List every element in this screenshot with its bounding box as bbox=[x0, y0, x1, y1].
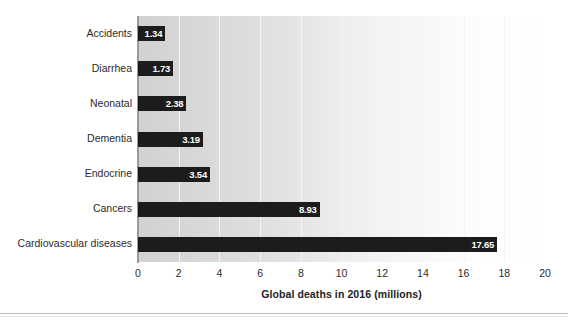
category-label: Accidents bbox=[0, 27, 139, 39]
bar: 1.34 bbox=[138, 26, 165, 41]
gridline-18 bbox=[504, 16, 505, 262]
bar-value-label: 1.73 bbox=[153, 63, 174, 74]
category-label: Diarrhea bbox=[0, 62, 139, 74]
gridline-12 bbox=[382, 16, 383, 262]
category-label: Neonatal bbox=[0, 97, 139, 109]
x-tick-label: 20 bbox=[530, 267, 560, 279]
bar: 3.54 bbox=[138, 167, 210, 182]
x-axis-title: Global deaths in 2016 (millions) bbox=[138, 288, 545, 300]
bar-value-label: 2.38 bbox=[166, 98, 187, 109]
x-tick-label: 16 bbox=[449, 267, 479, 279]
gridline-16 bbox=[464, 16, 465, 262]
bar: 3.19 bbox=[138, 132, 203, 147]
x-tick-label: 8 bbox=[286, 267, 316, 279]
bar: 8.93 bbox=[138, 202, 320, 217]
gridline-14 bbox=[423, 16, 424, 262]
x-tick-label: 2 bbox=[164, 267, 194, 279]
category-label: Dementia bbox=[0, 132, 139, 144]
bar: 17.65 bbox=[138, 237, 497, 252]
bar: 2.38 bbox=[138, 96, 186, 111]
page-divider-rule bbox=[0, 313, 568, 314]
x-tick-label: 4 bbox=[204, 267, 234, 279]
gridline-10 bbox=[342, 16, 343, 262]
category-label: Cardiovascular diseases bbox=[0, 237, 139, 249]
gridline-6 bbox=[260, 16, 261, 262]
x-tick-label: 6 bbox=[245, 267, 275, 279]
x-tick-label: 10 bbox=[327, 267, 357, 279]
x-tick-label: 0 bbox=[123, 267, 153, 279]
x-tick-label: 14 bbox=[408, 267, 438, 279]
gridline-8 bbox=[301, 16, 302, 262]
category-label: Cancers bbox=[0, 202, 139, 214]
category-label: Endocrine bbox=[0, 167, 139, 179]
bar-value-label: 3.19 bbox=[182, 134, 203, 145]
bar-value-label: 3.54 bbox=[189, 169, 210, 180]
bar-chart-figure: 1.341.732.383.193.548.9317.65 AccidentsD… bbox=[0, 0, 568, 323]
x-tick-label: 12 bbox=[367, 267, 397, 279]
page-divider-rule-secondary bbox=[0, 316, 568, 317]
bar-value-label: 1.34 bbox=[145, 28, 166, 39]
bar-value-label: 8.93 bbox=[299, 204, 320, 215]
bar-value-label: 17.65 bbox=[471, 239, 497, 250]
x-tick-label: 18 bbox=[489, 267, 519, 279]
gridline-4 bbox=[219, 16, 220, 262]
bar: 1.73 bbox=[138, 61, 173, 76]
